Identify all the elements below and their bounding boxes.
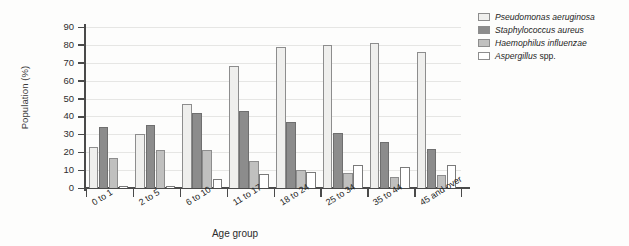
bar <box>370 43 380 188</box>
y-axis-tick-mark <box>78 98 86 100</box>
bar-group <box>276 27 316 188</box>
y-axis-tick-label: 50 <box>63 93 74 105</box>
bar-group <box>135 27 175 188</box>
y-axis-tick-mark <box>78 116 86 118</box>
bar <box>182 104 192 188</box>
bar <box>353 165 363 188</box>
y-axis-tick-mark <box>78 134 86 136</box>
bar <box>276 47 286 188</box>
y-axis-tick-label: 40 <box>63 110 74 122</box>
y-axis-tick-mark <box>78 152 86 154</box>
bar <box>417 52 427 188</box>
y-axis-tick-label: 0 <box>69 182 74 194</box>
x-axis-tick-label: 0 to 1 <box>90 187 114 207</box>
y-axis-tick-mark <box>78 80 86 82</box>
y-axis-tick-label: 30 <box>63 128 74 140</box>
bar <box>286 122 296 188</box>
bar <box>109 158 119 188</box>
legend-item: Aspergillus spp. <box>478 50 628 62</box>
bar <box>400 167 410 188</box>
bar <box>229 66 239 188</box>
y-axis-tick: 40 <box>0 110 86 122</box>
legend-label-suffix: spp. <box>537 51 556 61</box>
x-axis-tick-mark <box>133 188 134 197</box>
y-axis-tick-mark <box>78 170 86 172</box>
y-axis-tick: 70 <box>0 57 86 69</box>
bar <box>202 150 212 188</box>
bar-group <box>89 27 129 188</box>
bar-group <box>370 27 410 188</box>
x-axis-title: Age group <box>0 228 470 239</box>
legend-label: Staphylococcus aureus <box>495 25 584 35</box>
bar <box>156 150 166 188</box>
chart-legend: Pseudomonas aeruginosaStaphylococcus aur… <box>478 11 628 63</box>
bar <box>380 142 390 189</box>
legend-item: Staphylococcus aureus <box>478 24 628 36</box>
x-axis-tick-mark <box>86 188 87 197</box>
y-axis-tick-mark <box>78 62 86 64</box>
bar-group <box>229 27 269 188</box>
bar <box>135 134 145 188</box>
bar <box>89 147 99 188</box>
bar <box>427 149 437 188</box>
y-axis-tick: 60 <box>0 75 86 87</box>
legend-swatch <box>478 39 490 47</box>
legend-label: Aspergillus spp. <box>495 51 556 61</box>
legend-item: Haemophilus influenzae <box>478 37 628 49</box>
bar <box>333 133 343 188</box>
y-axis-tick: 80 <box>0 39 86 51</box>
y-axis-tick: 0 <box>0 182 86 194</box>
bar <box>213 179 223 188</box>
legend-swatch <box>478 13 490 21</box>
y-axis-tick-mark <box>78 44 86 46</box>
y-axis-tick-label: 70 <box>63 57 74 69</box>
legend-item: Pseudomonas aeruginosa <box>478 11 628 23</box>
y-axis-tick: 90 <box>0 21 86 33</box>
y-axis-tick-label: 60 <box>63 75 74 87</box>
bar <box>192 113 202 188</box>
bar <box>119 186 129 188</box>
bar <box>323 45 333 188</box>
legend-label: Pseudomonas aeruginosa <box>495 12 595 22</box>
y-axis-tick: 30 <box>0 128 86 140</box>
x-axis-tick-mark <box>367 188 368 197</box>
bar <box>239 111 249 188</box>
legend-label: Haemophilus influenzae <box>495 38 587 48</box>
y-axis-tick: 50 <box>0 93 86 105</box>
bar-group <box>323 27 363 188</box>
y-axis-tick: 10 <box>0 164 86 176</box>
y-axis-tick-label: 10 <box>63 164 74 176</box>
legend-swatch <box>478 26 490 34</box>
bar-group <box>182 27 222 188</box>
legend-swatch <box>478 52 490 60</box>
bar <box>146 125 156 188</box>
bar <box>166 186 176 188</box>
x-axis-tick-mark <box>461 188 462 197</box>
x-axis-tick-mark <box>180 188 181 197</box>
x-axis-tick-label: 2 to 5 <box>137 187 161 207</box>
y-axis-tick-label: 90 <box>63 21 74 33</box>
y-axis-tick-mark <box>78 27 86 29</box>
bar-group <box>417 27 457 188</box>
y-axis-tick-label: 20 <box>63 146 74 158</box>
x-axis-tick-mark <box>320 188 321 197</box>
x-axis-tick-mark <box>414 188 415 197</box>
plot-area <box>86 27 461 188</box>
y-axis-tick-mark <box>78 188 86 190</box>
bar <box>99 127 109 188</box>
x-axis-tick-mark <box>227 188 228 197</box>
x-axis-tick-mark <box>274 188 275 197</box>
y-axis-tick-label: 80 <box>63 39 74 51</box>
chart-figure: Population (%) 0102030405060708090 0 to … <box>0 0 629 246</box>
y-axis-tick: 20 <box>0 146 86 158</box>
